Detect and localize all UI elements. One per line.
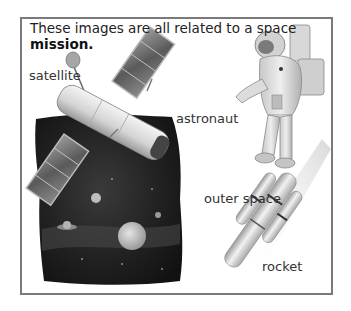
label-rocket: rocket bbox=[262, 259, 302, 274]
caption-bold-word: mission. bbox=[30, 36, 93, 52]
label-satellite: satellite bbox=[29, 68, 81, 83]
illustration-canvas bbox=[22, 19, 331, 293]
label-astronaut: astronaut bbox=[176, 111, 238, 126]
label-outer-space: outer space bbox=[204, 191, 281, 206]
image-frame: These images are all related to a space … bbox=[20, 17, 333, 295]
caption-text: These images are all related to a space bbox=[30, 20, 296, 36]
caption: These images are all related to a space … bbox=[30, 20, 296, 52]
